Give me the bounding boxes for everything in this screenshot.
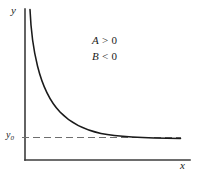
annotation-a-operator: > bbox=[102, 34, 109, 46]
y0-subscript: 0 bbox=[10, 134, 14, 142]
annotation-a-value: 0 bbox=[112, 34, 118, 46]
y0-asymptote-label: y0 bbox=[6, 130, 14, 142]
annotation-b-symbol: B bbox=[92, 50, 99, 62]
figure-canvas: y x y0 A>0 B<0 bbox=[0, 0, 197, 176]
curve-path bbox=[30, 10, 181, 139]
annotation-a: A>0 bbox=[92, 33, 117, 49]
x-axis-label: x bbox=[180, 160, 185, 171]
y-axis-label: y bbox=[11, 5, 16, 16]
annotation-b-operator: < bbox=[102, 50, 109, 62]
annotation-b-value: 0 bbox=[112, 50, 118, 62]
plot-area bbox=[0, 0, 197, 176]
annotation-b: B<0 bbox=[92, 49, 117, 65]
annotation-a-symbol: A bbox=[92, 34, 99, 46]
annotation-block: A>0 B<0 bbox=[92, 33, 117, 65]
